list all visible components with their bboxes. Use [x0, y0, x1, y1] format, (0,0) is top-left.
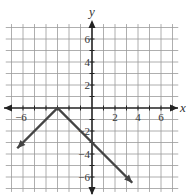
x-tick-label: 6	[158, 111, 164, 123]
x-axis-right-arrow-icon	[170, 105, 178, 112]
y-axis-up-arrow-icon	[89, 20, 96, 28]
x-tick-label: 2	[112, 111, 118, 123]
x-axis-label: x	[179, 100, 186, 115]
x-tick-label: −6	[15, 111, 27, 123]
axes	[4, 20, 178, 195]
x-tick-label: 4	[135, 111, 141, 123]
y-tick-label: −6	[78, 171, 90, 183]
x-axis-left-arrow-icon	[4, 105, 12, 112]
y-tick-label: 4	[85, 56, 91, 68]
y-axis-label: y	[87, 4, 95, 19]
y-tick-label: 6	[85, 33, 91, 45]
y-tick-label: 2	[85, 79, 91, 91]
coordinate-plane: −6246642−2−4−6 x y	[0, 0, 190, 196]
y-tick-label: −4	[78, 148, 90, 160]
